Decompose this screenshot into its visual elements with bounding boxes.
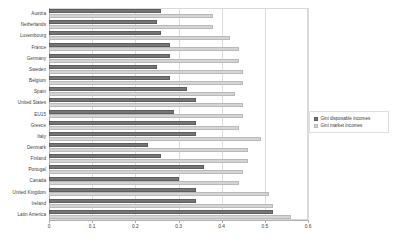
category-label: Spain [0, 89, 46, 94]
x-tick-label: 0 [39, 224, 59, 230]
bar-group [49, 86, 308, 97]
bar-disposable[interactable] [49, 121, 196, 125]
category-label: Germany [0, 56, 46, 61]
category-label: Greece [0, 123, 46, 128]
bar-rows [49, 8, 308, 220]
bar-market[interactable] [49, 92, 235, 96]
bar-group [49, 19, 308, 30]
bar-disposable[interactable] [49, 154, 161, 158]
bar-group [49, 64, 308, 75]
category-label: Italy [0, 134, 46, 139]
legend-swatch-market-icon [314, 124, 318, 128]
bar-group [49, 198, 308, 209]
category-label: France [0, 45, 46, 50]
bar-disposable[interactable] [49, 199, 196, 203]
bar-market[interactable] [49, 114, 243, 118]
category-label: Denmark [0, 145, 46, 150]
bar-group [49, 75, 308, 86]
bar-group [49, 53, 308, 64]
gini-income-bar-chart: AustriaNetherlandsLuxembourgFranceGerman… [0, 0, 396, 249]
legend-label-disposable: Gini disposable incomes [321, 116, 371, 121]
bar-market[interactable] [49, 126, 239, 130]
bar-group [49, 175, 308, 186]
bar-market[interactable] [49, 192, 269, 196]
category-label: EU15 [0, 112, 46, 117]
bar-disposable[interactable] [49, 98, 196, 102]
x-tick-label: 0.4 [212, 224, 232, 230]
category-label: Finland [0, 156, 46, 161]
bar-disposable[interactable] [49, 177, 179, 181]
bar-market[interactable] [49, 170, 243, 174]
category-label: United Kingdom [0, 190, 46, 195]
category-label: Belgium [0, 78, 46, 83]
bar-group [49, 164, 308, 175]
bar-group [49, 8, 308, 19]
bar-disposable[interactable] [49, 43, 170, 47]
bar-group [49, 142, 308, 153]
bar-group [49, 131, 308, 142]
bar-disposable[interactable] [49, 110, 174, 114]
bar-group [49, 97, 308, 108]
bar-disposable[interactable] [49, 31, 161, 35]
x-tick-mark [135, 220, 136, 223]
bar-market[interactable] [49, 159, 248, 163]
category-label: United States [0, 100, 46, 105]
category-label: Latin America [0, 212, 46, 217]
x-tick-label: 0.2 [125, 224, 145, 230]
bar-group [49, 187, 308, 198]
bar-market[interactable] [49, 25, 213, 29]
category-label: Austria [0, 11, 46, 16]
category-label: Netherlands [0, 22, 46, 27]
legend-item-market[interactable]: Gini market incomes [314, 123, 385, 128]
bar-disposable[interactable] [49, 188, 196, 192]
category-axis-labels: AustriaNetherlandsLuxembourgFranceGerman… [0, 8, 46, 220]
bar-group [49, 120, 308, 131]
bar-market[interactable] [49, 103, 243, 107]
bar-disposable[interactable] [49, 54, 170, 58]
bar-disposable[interactable] [49, 143, 148, 147]
bar-market[interactable] [49, 215, 291, 219]
legend-label-market: Gini market incomes [321, 123, 363, 128]
bar-group [49, 209, 308, 220]
bar-disposable[interactable] [49, 165, 204, 169]
x-tick-mark [222, 220, 223, 223]
category-label: Luxembourg [0, 33, 46, 38]
bar-disposable[interactable] [49, 9, 161, 13]
bar-market[interactable] [49, 137, 261, 141]
bar-market[interactable] [49, 204, 273, 208]
bar-disposable[interactable] [49, 65, 157, 69]
x-tick-label: 0.3 [169, 224, 189, 230]
category-label: Ireland [0, 201, 46, 206]
bar-group [49, 30, 308, 41]
bar-market[interactable] [49, 36, 230, 40]
category-label: Portugal [0, 167, 46, 172]
x-tick-mark [92, 220, 93, 223]
bar-disposable[interactable] [49, 210, 273, 214]
bar-market[interactable] [49, 47, 239, 51]
bar-market[interactable] [49, 148, 248, 152]
bar-market[interactable] [49, 181, 239, 185]
category-label: Sweden [0, 67, 46, 72]
legend-swatch-disposable-icon [314, 117, 318, 121]
bar-market[interactable] [49, 14, 213, 18]
bar-market[interactable] [49, 59, 239, 63]
bar-market[interactable] [49, 70, 243, 74]
chart-legend: Gini disposable incomes Gini market inco… [309, 111, 389, 133]
bar-disposable[interactable] [49, 76, 170, 80]
bar-disposable[interactable] [49, 132, 196, 136]
bar-disposable[interactable] [49, 87, 187, 91]
legend-item-disposable[interactable]: Gini disposable incomes [314, 116, 385, 121]
x-tick-mark [308, 220, 309, 223]
category-label: Canada [0, 178, 46, 183]
x-tick-mark [49, 220, 50, 223]
bar-disposable[interactable] [49, 20, 157, 24]
x-tick-mark [179, 220, 180, 223]
x-tick-label: 0.6 [298, 224, 318, 230]
bar-group [49, 153, 308, 164]
x-tick-label: 0.1 [82, 224, 102, 230]
x-tick-label: 0.5 [255, 224, 275, 230]
bar-market[interactable] [49, 81, 243, 85]
bar-group [49, 41, 308, 52]
bar-group [49, 108, 308, 119]
x-tick-mark [265, 220, 266, 223]
